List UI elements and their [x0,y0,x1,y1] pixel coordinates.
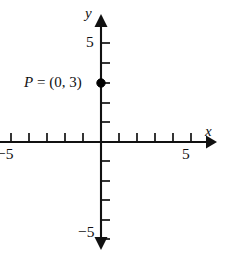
point-label-name: P [24,74,33,90]
plotted-point-p [97,79,105,87]
y-axis-arrowhead-up-icon [95,14,108,27]
y-axis-label: y [85,6,92,21]
y-axis-tick-label-5: 5 [86,34,94,50]
x-axis-tick-label-minus5: −5 [0,146,14,162]
point-label: P = (0, 3) [24,75,82,90]
x-axis-ticks-negative [11,133,83,142]
y-axis-tick-label-minus5: −5 [78,224,95,240]
coordinate-plane-svg [0,0,225,255]
point-label-coordinates: = (0, 3) [33,74,81,90]
x-axis-ticks-positive [119,133,191,142]
y-axis-ticks-negative [101,161,110,239]
x-axis-label: x [205,124,212,139]
x-axis-tick-label-5: 5 [182,146,190,162]
coordinate-plane-figure: y x 5 −5 −5 5 P = (0, 3) [0,0,225,255]
